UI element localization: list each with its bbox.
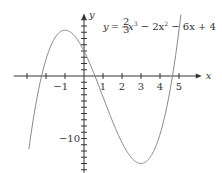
x-tick-label: −1 bbox=[53, 81, 68, 92]
x-tick-labels: −112345 bbox=[53, 81, 182, 92]
y-tick-labels: −10 bbox=[59, 133, 80, 144]
x-axis-arrow-icon bbox=[196, 74, 202, 79]
x-tick-label: 2 bbox=[119, 81, 125, 92]
function-plot: x y −112345 −10 y= 2 3 x3 − 2x2 − 6x + 4 bbox=[0, 0, 222, 173]
y-tick-label: −10 bbox=[59, 133, 80, 144]
equation-label: y= 2 3 x3 − 2x2 − 6x + 4 bbox=[102, 16, 216, 35]
equation-rhs: x3 − 2x2 − 6x + 4 bbox=[128, 20, 216, 32]
x-tick-label: 4 bbox=[157, 81, 163, 92]
y-axis-label: y bbox=[88, 9, 95, 20]
x-tick-label: 5 bbox=[176, 81, 182, 92]
y-axis-arrow-icon bbox=[82, 14, 87, 20]
x-axis-label: x bbox=[206, 70, 212, 81]
equation-lhs: y= bbox=[102, 21, 119, 32]
x-tick-label: 3 bbox=[138, 81, 144, 92]
